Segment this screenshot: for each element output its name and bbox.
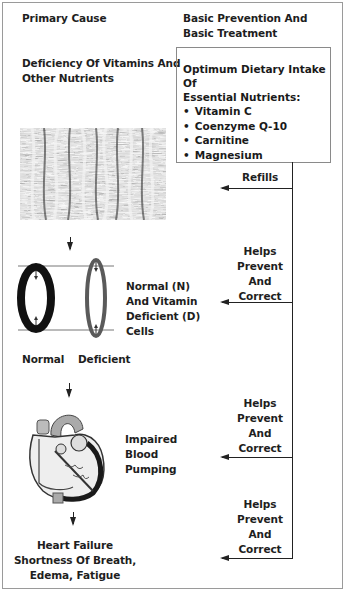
left-arrow-icon <box>222 558 293 559</box>
down-arrow-icon <box>73 512 74 524</box>
outcome-line1: Heart Failure <box>10 538 140 552</box>
nutrient-box: Optimum Dietary Intake Of Essential Nutr… <box>176 47 331 163</box>
outcome-line2: Shortness Of Breath, <box>10 553 140 567</box>
arrow4-line4: Correct <box>235 542 285 556</box>
left-arrow-icon <box>222 457 293 458</box>
muscle-tissue-image <box>20 128 166 220</box>
arrow3-line2: Prevent <box>235 411 285 425</box>
cells-caption-line3: Deficient (D) <box>126 309 200 323</box>
cause-line2: Other Nutrients <box>22 71 114 85</box>
nutrient-item: Carnitine <box>183 133 330 148</box>
arrow4-line1: Helps <box>235 497 285 511</box>
arrow3-line1: Helps <box>235 396 285 410</box>
nutrient-list: Vitamin C Coenzyme Q-10 Carnitine Magnes… <box>183 104 330 162</box>
primary-cause-header: Primary Cause <box>22 11 107 25</box>
arrow4-line2: Prevent <box>235 512 285 526</box>
arrow3-line3: And <box>235 426 285 440</box>
arrow3-line4: Correct <box>235 441 285 455</box>
heart-caption-line1: Impaired <box>125 432 177 446</box>
outcome-line3: Edema, Fatigue <box>10 568 140 582</box>
normal-cell-label: Normal <box>22 352 64 366</box>
cells-caption-line2: And Vitamin <box>126 294 197 308</box>
arrow4-line3: And <box>235 527 285 541</box>
nutrient-item: Coenzyme Q-10 <box>183 119 330 134</box>
down-arrow-icon <box>70 237 71 249</box>
nutrient-item: Vitamin C <box>183 104 330 119</box>
left-arrow-icon <box>222 302 293 303</box>
nutrient-item: Magnesium <box>183 148 330 163</box>
cells-diagram <box>14 256 120 344</box>
arrow2-line1: Helps <box>235 244 285 258</box>
prevention-header-line2: Basic Treatment <box>183 26 277 40</box>
treatment-connector-line <box>292 162 293 559</box>
down-arrow-icon <box>69 383 70 396</box>
arrow2-line4: Correct <box>235 289 285 303</box>
deficient-cell-label: Deficient <box>78 352 131 366</box>
cells-caption-line4: Cells <box>126 324 154 338</box>
cause-line1: Deficiency Of Vitamins And <box>22 56 180 70</box>
heart-illustration <box>25 405 110 505</box>
prevention-header-line1: Basic Prevention And <box>183 11 307 25</box>
refills-label: Refills <box>235 170 285 184</box>
heart-caption-line3: Pumping <box>125 462 177 476</box>
arrow2-line2: Prevent <box>235 259 285 273</box>
cells-caption-line1: Normal (N) <box>126 279 190 293</box>
nutrient-heading-line1: Optimum Dietary Intake Of <box>183 62 330 90</box>
left-arrow-icon <box>222 188 293 189</box>
arrow2-line3: And <box>235 274 285 288</box>
heart-caption-line2: Blood <box>125 447 158 461</box>
nutrient-heading-line2: Essential Nutrients: <box>183 90 330 104</box>
